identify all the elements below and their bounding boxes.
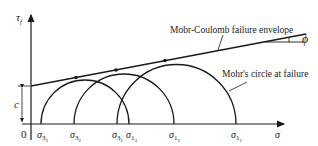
origin-label: 0	[21, 128, 27, 140]
tick-sigma1-1: σ11	[231, 129, 242, 143]
y-axis-label: τf	[16, 11, 23, 26]
tick-sigma3-1: σ31	[112, 129, 123, 143]
phi-label: ϕ	[302, 32, 308, 46]
x-axis-label: σ	[275, 129, 281, 140]
envelope-label: Mobr-Coulomb failure envelope	[170, 25, 293, 35]
mohr-circle-1	[117, 65, 236, 124]
mohr-circles	[41, 65, 236, 124]
tick-sigma1-2: σ12	[169, 129, 180, 143]
cohesion-bracket	[18, 86, 30, 122]
x-tick-labels: σ33 σ32 σ31 σ13 σ12 σ11	[37, 129, 242, 143]
tick-sigma3-3: σ33	[37, 129, 48, 143]
envelope-leader	[218, 35, 223, 50]
cohesion-label: c	[14, 98, 19, 110]
circle-leader	[229, 82, 247, 91]
mohr-coulomb-diagram: ϕ Mobr-Coulomb failure envelope Mohr's c…	[0, 0, 318, 146]
circle-label: Mohr's circle at failure	[222, 69, 308, 79]
tick-sigma3-2: σ32	[70, 129, 81, 143]
mohr-circle-2	[74, 74, 174, 124]
tick-sigma1-3: σ13	[126, 129, 137, 143]
mohr-circle-3	[41, 80, 129, 124]
